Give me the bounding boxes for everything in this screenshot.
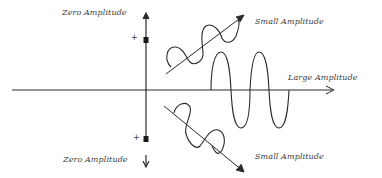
small-amplitude-bottom-label: Small Amplitude	[255, 152, 324, 161]
horizontal-axis	[12, 86, 334, 94]
down-arrow-icon	[143, 155, 149, 167]
plus-top-marker: +	[131, 33, 138, 42]
large-amplitude-label: Large Amplitude	[288, 73, 358, 82]
vertical-axis	[143, 13, 149, 140]
amplitude-diagram	[0, 0, 382, 178]
top-dot-marker	[144, 37, 149, 43]
small-amplitude-bottom-wave	[174, 103, 224, 153]
small-amplitude-top-label: Small Amplitude	[255, 17, 324, 26]
small-amplitude-top-arrow	[166, 15, 244, 74]
bottom-dot-marker	[144, 136, 149, 142]
zero-amplitude-top-label: Zero Amplitude	[62, 8, 127, 17]
zero-amplitude-bottom-label: Zero Amplitude	[63, 155, 128, 164]
small-amplitude-bottom-arrow	[164, 106, 244, 172]
plus-bottom-marker: +	[133, 133, 140, 142]
